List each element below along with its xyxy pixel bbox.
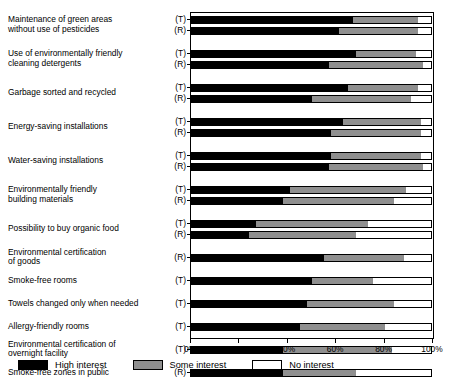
- legend-label: Some interest: [170, 360, 227, 370]
- segment-high-interest: [191, 198, 283, 204]
- bar-7-R: [190, 254, 432, 262]
- category-label-line: cleaning detergents: [8, 59, 156, 69]
- segment-high-interest: [191, 187, 290, 193]
- axis-tick-left: [187, 132, 190, 133]
- axis-tick-left: [187, 326, 190, 327]
- segment-high-interest: [191, 221, 256, 227]
- bar-0-T: [190, 16, 432, 24]
- category-label-line: without use of pesticides: [8, 25, 156, 35]
- category-label-line: building materials: [8, 195, 156, 205]
- segment-some-interest: [331, 130, 421, 136]
- bar-code-label: (T): [158, 344, 186, 355]
- bar-10-T: [190, 323, 432, 331]
- legend-label: No interest: [289, 360, 333, 370]
- segment-high-interest: [191, 255, 324, 261]
- x-axis-tick-label: 40%: [278, 344, 295, 354]
- category-label-line: Allergy-friendly rooms: [8, 322, 156, 332]
- bar-1-R: [190, 61, 432, 69]
- bar-5-R: [190, 197, 432, 205]
- bar-code-label: (T): [158, 184, 186, 195]
- axis-tick-left: [187, 19, 190, 20]
- category-label-line: Energy-saving installations: [8, 122, 156, 132]
- segment-some-interest: [339, 28, 419, 34]
- segment-high-interest: [191, 51, 356, 57]
- category-label-line: Smoke-free rooms: [8, 276, 156, 286]
- axis-tick-left: [187, 64, 190, 65]
- segment-some-interest: [290, 187, 406, 193]
- legend-item: No interest: [252, 360, 333, 370]
- x-axis-tick-label: 60%: [327, 344, 344, 354]
- bar-code-label: (R): [158, 161, 186, 172]
- legend-swatch: [133, 360, 163, 370]
- category-label: Allergy-friendly rooms: [8, 322, 156, 332]
- segment-high-interest: [191, 62, 329, 68]
- x-axis-tick-label: 100%: [421, 344, 442, 354]
- bar-code-label: (R): [158, 59, 186, 70]
- axis-tick-left: [187, 303, 190, 304]
- bar-code-label: (T): [158, 321, 186, 332]
- segment-some-interest: [343, 119, 420, 125]
- bar-code-label: (T): [158, 298, 186, 309]
- segment-some-interest: [283, 198, 394, 204]
- bar-code-label: (R): [158, 93, 186, 104]
- category-label: Environmental certificationof goods: [8, 248, 156, 267]
- category-label: Possibility to buy organic food: [8, 224, 156, 234]
- x-axis: 0%20%40%60%80%100%: [190, 339, 432, 355]
- x-axis-tick: [335, 339, 336, 343]
- x-axis-tick-label: 20%: [230, 344, 247, 354]
- axis-tick-left: [187, 53, 190, 54]
- bar-code-label: (R): [158, 195, 186, 206]
- x-axis-tick-label: 0%: [184, 344, 196, 354]
- axis-tick-left: [187, 121, 190, 122]
- category-label: Maintenance of green areaswithout use of…: [8, 15, 156, 34]
- axis-tick-left: [187, 189, 190, 190]
- legend-swatch: [252, 360, 282, 370]
- category-label-line: Towels changed only when needed: [8, 299, 156, 309]
- bar-1-T: [190, 50, 432, 58]
- segment-high-interest: [191, 324, 300, 330]
- segment-some-interest: [312, 96, 411, 102]
- chart-legend: High interestSome interestNo interest: [18, 357, 448, 373]
- segment-high-interest: [191, 164, 329, 170]
- segment-some-interest: [356, 51, 417, 57]
- bar-code-label: (T): [158, 150, 186, 161]
- category-label: Garbage sorted and recycled: [8, 88, 156, 98]
- bar-code-label: (T): [158, 82, 186, 93]
- x-axis-tick: [287, 339, 288, 343]
- legend-swatch: [18, 360, 48, 370]
- segment-some-interest: [329, 62, 423, 68]
- axis-tick-left: [187, 166, 190, 167]
- bar-code-label: (T): [158, 275, 186, 286]
- stacked-bar-chart: (T)(R)Maintenance of green areaswithout …: [0, 0, 458, 382]
- legend-item: High interest: [18, 360, 107, 370]
- axis-tick-left: [187, 200, 190, 201]
- bar-6-R: [190, 231, 432, 239]
- category-label-line: Garbage sorted and recycled: [8, 88, 156, 98]
- axis-tick-left: [187, 257, 190, 258]
- bar-code-label: (T): [158, 218, 186, 229]
- segment-some-interest: [348, 85, 418, 91]
- bar-code-label: (R): [158, 127, 186, 138]
- segment-high-interest: [191, 130, 331, 136]
- bar-3-R: [190, 129, 432, 137]
- category-label: Water-saving installations: [8, 156, 156, 166]
- axis-tick-left: [187, 223, 190, 224]
- bar-0-R: [190, 27, 432, 35]
- bar-6-T: [190, 220, 432, 228]
- category-label: Energy-saving installations: [8, 122, 156, 132]
- category-label: Smoke-free rooms: [8, 276, 156, 286]
- bar-2-T: [190, 84, 432, 92]
- segment-some-interest: [312, 278, 373, 284]
- segment-some-interest: [300, 324, 385, 330]
- bar-code-label: (T): [158, 48, 186, 59]
- bar-code-label: (R): [158, 252, 186, 263]
- bar-5-T: [190, 186, 432, 194]
- bar-4-T: [190, 152, 432, 160]
- bar-8-T: [190, 277, 432, 285]
- bar-code-label: (R): [158, 229, 186, 240]
- x-axis-tick: [238, 339, 239, 343]
- bar-9-T: [190, 300, 432, 308]
- segment-some-interest: [331, 153, 421, 159]
- segment-high-interest: [191, 301, 307, 307]
- category-label-line: of goods: [8, 257, 156, 267]
